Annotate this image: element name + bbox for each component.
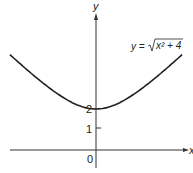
origin-label: 0 — [87, 153, 93, 165]
y-axis-arrow-icon — [94, 13, 98, 20]
chart: y x 2 1 0 y = x² + 4 — [0, 0, 193, 173]
equation-label: y = x² + 4 — [130, 39, 183, 52]
equation-radicand: x² + 4 — [155, 40, 182, 51]
equation-lhs: y = — [130, 41, 145, 52]
y-tick-label-2: 2 — [86, 103, 92, 115]
x-axis-label: x — [188, 144, 193, 156]
y-axis-label: y — [92, 0, 100, 12]
y-tick-label-1: 1 — [86, 123, 92, 135]
